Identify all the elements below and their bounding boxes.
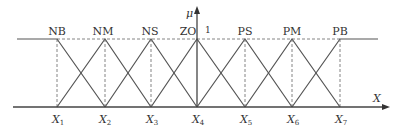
set-label-nm: NM: [93, 25, 114, 38]
tick-x5: X5: [239, 113, 252, 127]
y-axis-arrow-icon: [194, 6, 200, 14]
tick-x1: X1: [51, 113, 64, 127]
tick-x3: X3: [145, 113, 158, 127]
set-label-nb: NB: [48, 25, 66, 38]
y-axis-label: μ: [186, 7, 193, 20]
x-axis-label: X: [372, 92, 382, 105]
set-label-pm: PM: [283, 25, 302, 38]
tick-x4: X4: [191, 113, 205, 127]
tick-x7: X7: [334, 113, 347, 127]
set-label-ps: PS: [238, 25, 253, 38]
set-label-pb: PB: [332, 25, 348, 38]
set-label-zo: ZO: [180, 25, 197, 38]
tick-x2: X2: [98, 113, 111, 127]
set-label-ns: NS: [141, 25, 158, 38]
axes: [13, 12, 384, 107]
dashed-guides: [57, 39, 340, 107]
peak-value-label: 1: [205, 25, 211, 35]
x-tick-labels: X1 X2 X3 X4 X5 X6 X7: [51, 113, 347, 127]
tick-x6: X6: [286, 113, 300, 127]
fuzzy-membership-diagram: μ X 1 NB NM NS ZO PS PM PB X1 X2 X3 X4 X…: [0, 0, 395, 133]
x-axis-arrow-icon: [382, 104, 390, 110]
